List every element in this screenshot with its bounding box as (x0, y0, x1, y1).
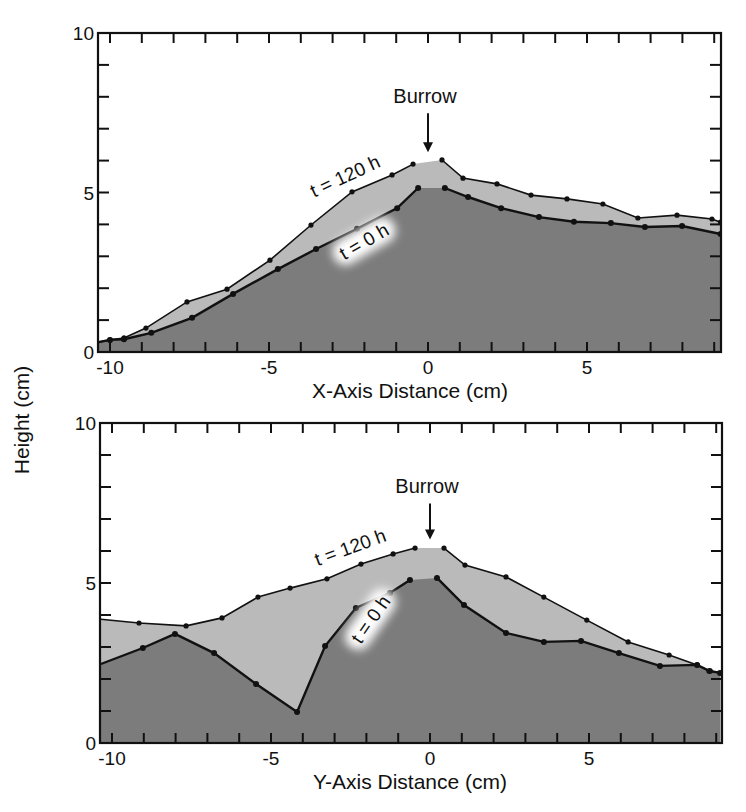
data-point (541, 639, 547, 645)
data-point (353, 605, 359, 611)
data-point (219, 615, 224, 620)
plot-area (101, 546, 725, 743)
data-point (584, 618, 589, 623)
data-point (709, 216, 714, 221)
shared-y-axis-label: Height (cm) (10, 366, 34, 475)
y-tick-label: 10 (75, 413, 96, 434)
data-point (571, 219, 577, 225)
burrow-arrow-head-icon (425, 529, 435, 539)
data-point (391, 551, 396, 556)
data-point (434, 575, 440, 581)
data-point (498, 205, 504, 211)
data-point (211, 650, 217, 656)
data-point (608, 220, 614, 226)
data-point (322, 643, 328, 649)
data-point (460, 176, 465, 181)
x-tick-label: 5 (582, 357, 593, 378)
data-point (275, 266, 281, 272)
data-point (528, 192, 533, 197)
data-point (107, 337, 113, 343)
data-point (616, 650, 622, 656)
data-point (600, 201, 605, 206)
x-tick-label: -10 (98, 748, 125, 769)
data-point (461, 602, 467, 608)
x-tick-label: -5 (263, 748, 280, 769)
data-point (410, 162, 415, 167)
x-axis-title: X-Axis Distance (cm) (312, 379, 508, 402)
data-point (183, 623, 188, 628)
data-point (358, 562, 363, 567)
data-point (415, 185, 421, 191)
data-point (412, 546, 417, 551)
panel-y-axis-profile: Burrowt = 120 ht = 0 h-10-5050510Y-Axis … (75, 413, 725, 793)
data-point (253, 681, 259, 687)
data-point (349, 189, 354, 194)
data-point (441, 546, 446, 551)
data-point (287, 586, 292, 591)
data-point (707, 668, 713, 674)
data-point (578, 638, 584, 644)
data-point (230, 291, 236, 297)
data-point (324, 576, 329, 581)
data-point (642, 224, 648, 230)
data-point (674, 213, 679, 218)
data-point (626, 639, 631, 644)
y-tick-label: 5 (85, 573, 96, 594)
data-point (148, 330, 154, 336)
data-point (121, 336, 127, 342)
charts-canvas: Burrowt = 120 ht = 0 h-10-5050510X-Axis … (0, 0, 746, 812)
y-tick-label: 0 (85, 733, 96, 754)
data-point (657, 663, 663, 669)
data-point (136, 620, 141, 625)
data-point (462, 562, 467, 567)
x-tick-label: -10 (96, 357, 123, 378)
data-point (255, 594, 260, 599)
x-tick-label: 0 (425, 748, 436, 769)
area-t0 (97, 188, 720, 352)
data-point (143, 325, 148, 330)
x-axis-title: Y-Axis Distance (cm) (313, 770, 507, 793)
burrow-arrow-head-icon (423, 142, 433, 152)
x-tick-label: 0 (423, 357, 434, 378)
burrow-label: Burrow (393, 85, 457, 107)
data-point (503, 574, 508, 579)
data-point (394, 205, 400, 211)
data-point (564, 196, 569, 201)
data-point (308, 222, 313, 227)
data-point (389, 172, 394, 177)
data-point (172, 631, 178, 637)
x-tick-label: -5 (261, 357, 278, 378)
burrow-label: Burrow (395, 475, 459, 497)
y-tick-label: 10 (73, 23, 94, 44)
data-point (494, 181, 499, 186)
data-point (189, 315, 195, 321)
x-tick-label: 5 (584, 748, 595, 769)
data-point (407, 577, 413, 583)
area-t0 (101, 578, 720, 743)
data-point (313, 246, 319, 252)
data-point (635, 215, 640, 220)
data-point (679, 223, 685, 229)
data-point (140, 645, 146, 651)
data-point (439, 157, 444, 162)
data-point (267, 258, 272, 263)
y-tick-label: 5 (83, 183, 94, 204)
figure: Height (cm) Burrowt = 120 ht = 0 h-10-50… (0, 0, 746, 812)
data-point (536, 214, 542, 220)
plot-area (97, 157, 723, 352)
data-point (667, 652, 672, 657)
data-point (294, 709, 300, 715)
data-point (465, 194, 471, 200)
y-tick-label: 0 (83, 342, 94, 363)
data-point (541, 594, 546, 599)
data-point (442, 185, 448, 191)
data-point (694, 662, 700, 668)
data-point (503, 630, 509, 636)
data-point (224, 287, 229, 292)
data-point (184, 299, 189, 304)
panel-x-axis-profile: Burrowt = 120 ht = 0 h-10-5050510X-Axis … (73, 23, 724, 402)
